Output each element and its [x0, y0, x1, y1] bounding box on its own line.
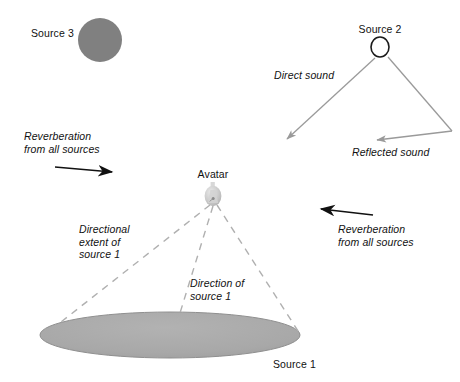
direction-of-source-line: [176, 206, 213, 326]
source-3-circle: [78, 18, 122, 62]
diagram-canvas: Source 3 Source 2 Direct sound Reflected…: [0, 0, 460, 382]
reverberation-label-right: Reverberation from all sources: [338, 223, 414, 248]
directional-extent-label: Directional extent of source 1: [79, 223, 130, 261]
reflected-sound-reflected-ray: [377, 131, 452, 140]
direct-sound-label: Direct sound: [274, 69, 334, 82]
reflected-sound-incident-ray: [388, 57, 452, 131]
reflected-sound-label: Reflected sound: [352, 146, 429, 159]
source-3-label: Source 3: [31, 27, 74, 40]
source-2-label: Source 2: [359, 23, 402, 36]
source-2-circle: [371, 37, 389, 57]
avatar-figure-icon: [205, 182, 222, 206]
source-1-ellipse: [40, 312, 300, 358]
direction-of-source-label: Direction of source 1: [190, 277, 244, 302]
source-1-label: Source 1: [273, 358, 316, 371]
reverberation-arrow-right: [321, 209, 373, 215]
reverberation-label-left: Reverberation from all sources: [24, 130, 100, 155]
avatar-label: Avatar: [198, 168, 229, 181]
diagram-graphics: [0, 0, 460, 382]
reverberation-arrow-left: [55, 167, 112, 172]
